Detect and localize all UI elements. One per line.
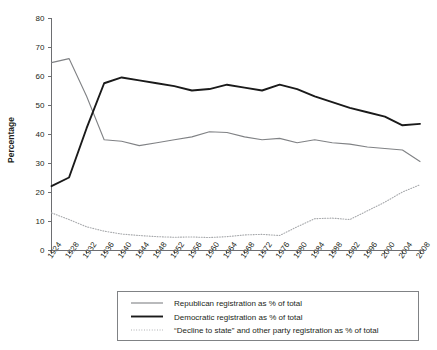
y-axis-title-group: Percentage <box>6 117 16 163</box>
y-tick-label: 50 <box>36 101 45 110</box>
y-tick-label: 60 <box>36 72 45 81</box>
series-line-republican <box>52 59 421 162</box>
series-line-democratic <box>52 77 421 186</box>
legend-label-decline-to-state: “Decline to state” and other party regis… <box>174 326 379 335</box>
legend-label-democratic: Democratic registration as % of total <box>174 313 303 322</box>
chart-container: Percentage 01020304050607080 19241928193… <box>0 0 437 350</box>
series-line-decline-to-state <box>52 185 421 238</box>
y-axis-title: Percentage <box>6 117 16 163</box>
y-tick-label: 20 <box>36 188 45 197</box>
legend-item-democratic: Democratic registration as % of total <box>131 313 303 322</box>
y-tick-label: 40 <box>36 130 45 139</box>
y-tick-label: 0 <box>40 246 45 255</box>
y-tick-label: 30 <box>36 159 45 168</box>
y-tick-label: 80 <box>36 14 45 23</box>
legend-item-republican: Republican registration as % of total <box>131 299 302 308</box>
y-tick-label: 70 <box>36 43 45 52</box>
y-tick-label: 10 <box>36 217 45 226</box>
legend-item-decline-to-state: “Decline to state” and other party regis… <box>131 326 379 335</box>
line-chart: Percentage 01020304050607080 19241928193… <box>0 0 437 350</box>
y-axis-ticks: 01020304050607080 <box>36 14 52 255</box>
legend-label-republican: Republican registration as % of total <box>174 299 302 308</box>
